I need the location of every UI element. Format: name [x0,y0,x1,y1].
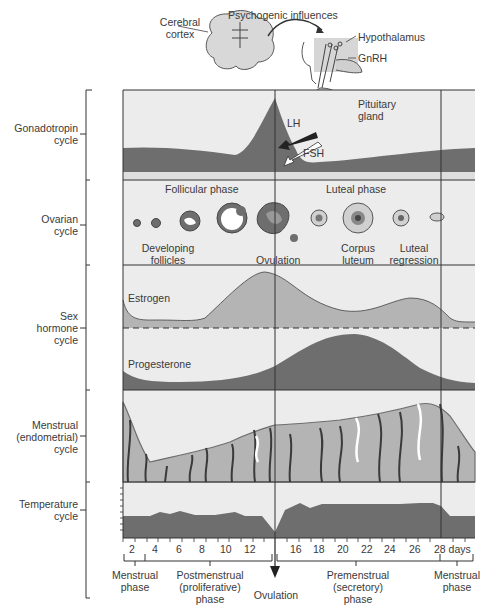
cerebral-cortex-label: Cerebral cortex [150,16,210,40]
tick-20: 20 [337,543,349,555]
tick-10: 10 [220,543,232,555]
tick-22: 22 [361,543,373,555]
tick-4: 4 [152,543,158,555]
estrogen-label: Estrogen [128,292,170,304]
row-label-menstrual: Menstrual (endometrial) cycle [0,419,78,455]
phase-brackets [124,554,473,566]
tick-12: 12 [244,543,256,555]
luteal-regression-label: Luteal regression [384,242,444,266]
row-label-temperature: Temperature cycle [0,498,78,522]
lh-label: LH [287,117,300,129]
follicular-phase-label: Follicular phase [165,183,239,195]
row-label-sex-hormone: Sex hormone cycle [0,310,78,346]
hypothalamus-label: Hypothalamus [358,31,425,43]
tick-16: 16 [290,543,302,555]
luteal-phase-label: Luteal phase [326,183,386,195]
row-label-gonadotropin: Gonadotropin cycle [0,122,78,146]
corpus-luteum-label: Corpus luteum [330,242,386,266]
postmenstrual-phase-label: Postmenstrual (proliferative) phase [172,569,248,605]
ovulation-arrow-icon [270,566,280,578]
day-axis-ticks [123,538,465,542]
tick-8: 8 [199,543,205,555]
premenstrual-phase-label: Premenstrual (secretory) phase [320,569,396,605]
tick-2: 2 [129,543,135,555]
tick-26: 26 [409,543,421,555]
pituitary-gland-label: Pituitary gland [358,98,396,122]
gnrh-label: GnRH [358,52,387,64]
menstrual-phase-start-label: Menstrual phase [103,569,167,593]
ovulation-ovarian-label: Ovulation [256,254,300,266]
tick-18: 18 [313,543,325,555]
row-label-ovarian: Ovarian cycle [0,213,78,237]
fsh-label: FSH [303,147,324,159]
menstrual-phase-end-label: Menstrual phase [425,569,489,593]
tick-24: 24 [384,543,396,555]
tick-6: 6 [176,543,182,555]
psychogenic-influences-label: Psychogenic influences [228,9,338,21]
progesterone-label: Progesterone [128,358,191,370]
ovulation-axis-label: Ovulation [250,589,302,601]
tick-28-days: 28 days [434,543,471,555]
developing-follicles-label: Developing follicles [133,242,203,266]
row-bracket-axis [80,90,92,598]
